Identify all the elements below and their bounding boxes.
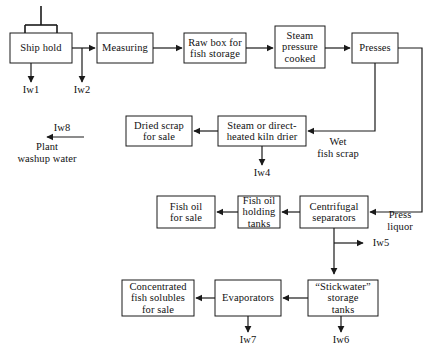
node-evaporators[interactable] <box>215 280 281 316</box>
node-measuring[interactable] <box>97 33 153 63</box>
edge-presses-to-kilndrier <box>308 63 375 131</box>
node-steam-pressure-cooked[interactable] <box>275 26 325 68</box>
ship-unloader-icon <box>25 6 57 33</box>
label-iw5: Iw5 <box>366 237 396 249</box>
label-wet-fish-scrap: Wetfish scrap <box>310 136 366 159</box>
node-fish-oil-holding-tanks[interactable] <box>238 196 280 228</box>
node-stickwater-tanks[interactable] <box>308 280 378 316</box>
label-iw1: Iw1 <box>16 84 46 96</box>
node-raw-box[interactable] <box>184 33 246 63</box>
node-centrifugal-separators[interactable] <box>300 196 368 228</box>
process-flow-diagram: Ship hold Measuring Raw box forfish stor… <box>0 0 438 347</box>
label-iw6: Iw6 <box>326 334 356 346</box>
node-fish-oil-for-sale[interactable] <box>157 196 215 228</box>
label-iw8: Iw8 <box>47 122 77 134</box>
node-concentrated-solubles[interactable] <box>122 280 194 316</box>
label-iw7: Iw7 <box>233 334 263 346</box>
node-kiln-drier[interactable] <box>218 116 306 146</box>
node-presses[interactable] <box>352 33 398 63</box>
label-press-liquor: Pressliquor <box>378 209 422 232</box>
flow-connectors-layer <box>0 0 438 347</box>
node-ship-hold[interactable] <box>10 33 72 63</box>
label-iw2: Iw2 <box>67 84 97 96</box>
node-dried-scrap[interactable] <box>126 116 192 146</box>
label-plant-washup-water: Plantwashup water <box>8 141 86 164</box>
edge-presses-to-separators <box>370 48 422 212</box>
label-iw4: Iw4 <box>247 167 277 179</box>
